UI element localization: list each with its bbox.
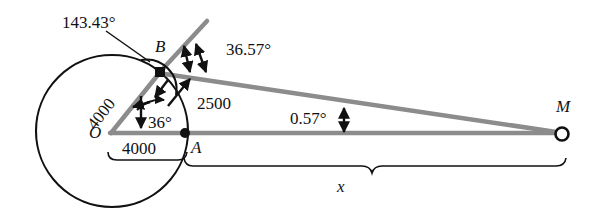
point-label-O: O [89,124,101,141]
point-label-M: M [556,98,570,115]
arrow-143-upper [155,80,168,97]
arrow-3657-double [196,44,206,72]
brace-x [184,158,566,173]
angle-label-36: 36° [148,114,172,131]
angle-label-143: 143.43° [62,14,116,31]
arrow-at-B-double [184,46,190,72]
geometry-figure: 143.43° 36.57° 36° 0.57° 4000 4000 2500 … [0,0,606,220]
point-label-A: A [191,139,201,156]
point-marker-A [180,128,190,138]
angle-label-3657: 36.57° [226,41,271,58]
angle-label-057: 0.57° [290,110,327,127]
point-marker-M [556,128,569,141]
length-label-x: x [337,178,345,195]
point-label-B: B [155,38,165,55]
length-label-BA: 2500 [197,95,231,112]
point-marker-B [155,67,165,77]
length-label-OA: 4000 [122,140,156,157]
